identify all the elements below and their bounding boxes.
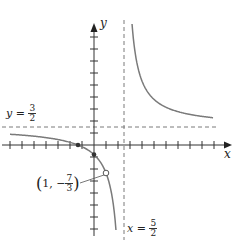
- x-axis-label: x: [224, 148, 231, 160]
- x-axis: [2, 141, 226, 149]
- fraction-denominator: 2: [150, 229, 156, 238]
- hole-leader-line: [80, 175, 104, 183]
- y-axis: [90, 30, 98, 236]
- horizontal-asymptote-label: y = 3 2: [6, 104, 36, 123]
- y-intercept-point: [92, 152, 97, 157]
- x-intercept-point: [76, 143, 81, 148]
- h-asymptote-lhs: y =: [6, 107, 25, 120]
- hole-point-label: (1, − 7 3 ): [36, 174, 79, 193]
- y-axis-arrow-icon: [91, 23, 98, 32]
- curve-right-branch: [132, 24, 213, 118]
- hole-x-value: 1,: [42, 177, 53, 190]
- y-axis-label: y: [100, 17, 107, 29]
- hole-point: [103, 170, 109, 176]
- fraction-denominator: 3: [66, 184, 72, 193]
- vertical-asymptote-label: x = 5 2: [127, 219, 157, 238]
- h-asymptote-fraction: 3 2: [28, 104, 36, 123]
- v-asymptote-lhs: x =: [127, 222, 146, 235]
- v-asymptote-fraction: 5 2: [149, 219, 157, 238]
- close-paren: ): [73, 174, 79, 193]
- fraction-denominator: 2: [29, 114, 35, 123]
- hole-minus-sign: −: [56, 177, 65, 190]
